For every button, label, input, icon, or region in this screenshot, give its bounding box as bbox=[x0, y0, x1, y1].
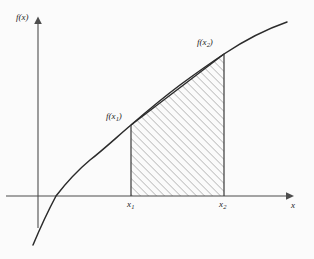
f-of-x1-close: ) bbox=[119, 111, 122, 121]
f-of-x2-label: f(x2) bbox=[197, 38, 213, 47]
f-of-x1-base: f(x bbox=[106, 111, 116, 121]
function-diagram: f(x) f(x1) f(x2) x1 x2 x bbox=[0, 0, 314, 259]
shaded-trapezoid-region bbox=[131, 54, 224, 196]
x2-tick-label: x2 bbox=[219, 200, 226, 209]
x2-subscript: 2 bbox=[223, 203, 226, 210]
f-of-x1-label: f(x1) bbox=[106, 112, 122, 121]
f-of-x2-close: ) bbox=[210, 37, 213, 47]
f-of-x1-subscript: 1 bbox=[116, 115, 119, 122]
y-axis-arrowhead bbox=[34, 17, 42, 25]
x1-subscript: 1 bbox=[131, 203, 134, 210]
x-axis-arrowhead bbox=[286, 192, 294, 200]
x1-tick-label: x1 bbox=[127, 200, 134, 209]
f-of-x2-subscript: 2 bbox=[207, 41, 210, 48]
f-of-x2-base: f(x bbox=[197, 37, 207, 47]
y-axis-label: f(x) bbox=[16, 13, 29, 22]
x-axis-label: x bbox=[291, 201, 295, 210]
diagram-canvas bbox=[0, 0, 314, 259]
